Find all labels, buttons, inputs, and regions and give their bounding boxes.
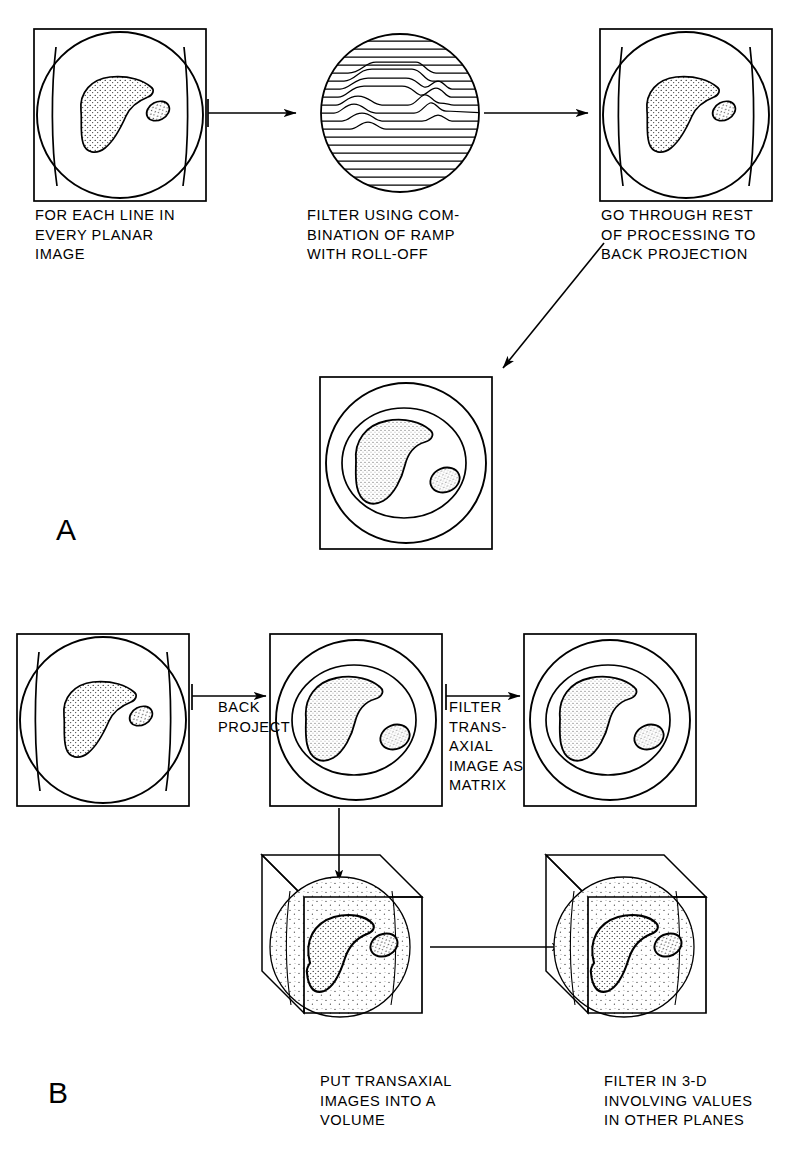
arrow-planar-to-filter [208, 99, 296, 127]
panel-b-transaxial-image [270, 634, 442, 806]
caption-filter-in-3d-other-planes: FILTER IN 3-D INVOLVING VALUES IN OTHER … [604, 1072, 753, 1131]
panel-b-volume-cube [262, 855, 422, 1017]
panel-a-filter-profile-circle [316, 34, 484, 192]
panel-letter-b: B [48, 1078, 68, 1108]
panel-letter-a: A [56, 515, 76, 545]
caption-filter-transaxial-image-as-matrix: FILTER TRANS- AXIAL IMAGE AS MATRIX [449, 698, 524, 796]
figure-drawing [0, 0, 806, 1151]
caption-back-project: BACK PROJECT [218, 698, 290, 737]
caption-go-through-rest-of-processing: GO THROUGH REST OF PROCESSING TO BACK PR… [601, 206, 756, 265]
caption-put-transaxial-images-into-volume: PUT TRANSAXIAL IMAGES INTO A VOLUME [320, 1072, 452, 1131]
panel-a-transaxial-result [320, 377, 492, 549]
panel-a-backproject-image [600, 29, 772, 201]
arrow-backproject-to-transaxial [503, 243, 604, 368]
panel-b-planar-image [17, 634, 189, 806]
panel-b-transaxial-filtered [524, 634, 696, 806]
panel-b-group [17, 634, 706, 1017]
caption-for-each-line-planar: FOR EACH LINE IN EVERY PLANAR IMAGE [35, 206, 175, 265]
caption-filter-ramp-rolloff: FILTER USING COM- BINATION OF RAMP WITH … [307, 206, 460, 265]
figure-root: FOR EACH LINE IN EVERY PLANAR IMAGE FILT… [0, 0, 806, 1151]
panel-a-group [34, 29, 772, 549]
panel-a-planar-image [34, 29, 206, 201]
panel-b-filter3d-cube [546, 855, 706, 1017]
